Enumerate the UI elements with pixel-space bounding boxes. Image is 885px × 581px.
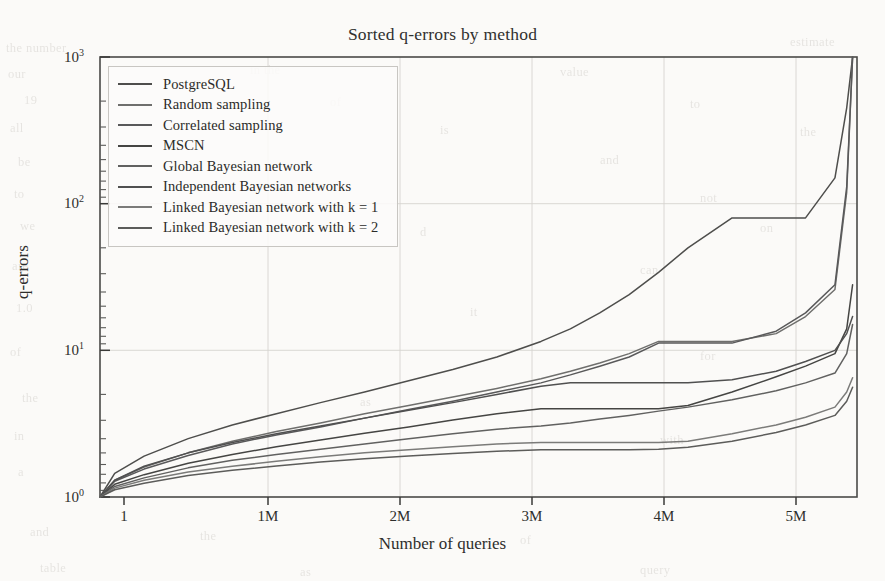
x-axis-title: Number of queries [0, 534, 885, 554]
legend-line-swatch [118, 83, 152, 85]
legend-item: PostgreSQL [118, 74, 388, 95]
legend-item-label: Correlated sampling [163, 117, 283, 134]
legend-item: Independent Bayesian networks [118, 177, 388, 198]
y-tick-label-1: 100 [38, 487, 84, 506]
x-tick-label-4: 4M [634, 508, 694, 525]
legend-line-swatch [118, 165, 152, 167]
legend-line-swatch [118, 145, 152, 147]
legend-item-label: Global Bayesian network [163, 158, 313, 175]
legend-item-label: PostgreSQL [163, 76, 235, 93]
x-tick-label-3: 3M [502, 508, 562, 525]
legend-line-swatch [118, 227, 152, 229]
series-line [100, 387, 853, 497]
legend-item-label: Independent Bayesian networks [163, 178, 351, 195]
legend-item: MSCN [118, 136, 388, 157]
y-tick-label-1000: 103 [38, 47, 84, 66]
chart-legend: PostgreSQLRandom samplingCorrelated samp… [108, 66, 398, 247]
legend-item-label: Linked Bayesian network with k = 1 [163, 199, 378, 216]
x-tick-label-5: 5M [766, 508, 826, 525]
x-tick-label-2: 2M [370, 508, 430, 525]
y-axis-title: q-errors [13, 207, 33, 337]
legend-item: Random sampling [118, 95, 388, 116]
series-line [100, 317, 853, 497]
y-tick-label-10: 101 [38, 340, 84, 359]
legend-item: Correlated sampling [118, 115, 388, 136]
legend-item: Global Bayesian network [118, 156, 388, 177]
x-tick-label-0: 1 [94, 508, 154, 525]
legend-item-label: Linked Bayesian network with k = 2 [163, 219, 378, 236]
y-tick-label-100: 102 [38, 193, 84, 212]
series-line [100, 285, 853, 497]
legend-item-label: Random sampling [163, 96, 270, 113]
legend-item-label: MSCN [163, 137, 205, 154]
legend-line-swatch [118, 124, 152, 126]
legend-line-swatch [118, 104, 152, 106]
legend-line-swatch [118, 186, 152, 188]
x-tick-label-1: 1M [238, 508, 298, 525]
x-major-ticks [124, 497, 796, 505]
legend-line-swatch [118, 206, 152, 208]
y-minor-ticks [100, 101, 106, 490]
legend-item: Linked Bayesian network with k = 1 [118, 197, 388, 218]
legend-item: Linked Bayesian network with k = 2 [118, 218, 388, 239]
